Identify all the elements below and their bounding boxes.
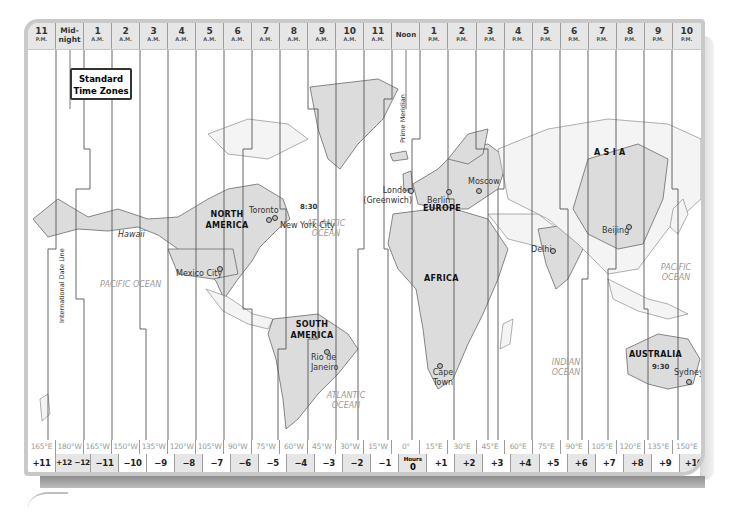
offset-cell: +1 (427, 454, 455, 472)
period-label: P.M. (561, 36, 588, 43)
offset-cell: +8 (624, 454, 652, 472)
period-label: P.M. (673, 36, 701, 43)
city-mexico-city: Mexico City (176, 269, 222, 278)
period-label: A.M. (84, 36, 111, 43)
offset-cell: +5 (540, 454, 568, 472)
longitude-cell: 75°W (252, 440, 280, 454)
region-label: NORTH AMERICA (201, 209, 253, 231)
longitude-cell: 45°E (477, 440, 505, 454)
prime-meridian-label: Prime Meridian (399, 94, 407, 143)
longitude-cell: 150°W (112, 440, 140, 454)
ocean-pacific-west: PACIFIC OCEAN (100, 280, 161, 290)
offset-value: 0 (399, 462, 426, 472)
page-curl-decoration (28, 492, 68, 512)
hour-label: 11 (28, 23, 55, 36)
rio-marker-icon (324, 349, 330, 355)
period-label: A.M. (168, 36, 195, 43)
offset-cell: +11 (28, 454, 56, 472)
time-cell: 2A.M. (112, 23, 140, 49)
time-cell: 3A.M. (140, 23, 168, 49)
longitude-cell: 30°W (336, 440, 364, 454)
offset-cell: −11 (91, 454, 119, 472)
title-line-2: Time Zones (72, 85, 130, 97)
time-cell: 11A.M. (364, 23, 392, 49)
hour-label: 4 (168, 23, 195, 36)
period-label: P.M. (533, 36, 560, 43)
city-cape-town: Cape Town (428, 368, 458, 388)
mexico-city-marker-icon (217, 266, 223, 272)
hour-label: 5 (196, 23, 223, 36)
region-africa: AFRICA (424, 273, 459, 284)
period-label: A.M. (364, 36, 391, 43)
offset-cell: −6 (231, 454, 259, 472)
offset-cell: +2 (455, 454, 483, 472)
longitude-cell: 135°E (645, 440, 673, 454)
time-zone-map: 11P.M. Mid-night 1A.M. 2A.M. 3A.M. 4A.M.… (28, 23, 701, 472)
offset-cell: −8 (175, 454, 203, 472)
hour-label: 10 (336, 23, 363, 36)
offset-cell: +3 (483, 454, 511, 472)
city-delhi: Delhi (531, 245, 552, 254)
period-label: P.M. (448, 36, 475, 43)
offset-cell: −9 (147, 454, 175, 472)
city-london: London (Greenwich) (360, 186, 412, 206)
time-cell: 7A.M. (252, 23, 280, 49)
longitude-cell: 90°E (561, 440, 589, 454)
hour-label: 9 (308, 23, 335, 36)
offset-cell: −1 (371, 454, 399, 472)
city-rio: Rio de Janeiro (311, 353, 351, 373)
hour-label: 2 (448, 23, 475, 36)
offset-cell: +9 (652, 454, 680, 472)
period-label: P.M. (589, 36, 616, 43)
offset-cell: −10 (119, 454, 147, 472)
london-marker-icon (408, 188, 414, 194)
sydney-marker-icon (686, 379, 692, 385)
delhi-marker-icon (550, 248, 556, 254)
hour-label: Mid-night (56, 23, 83, 44)
time-cell: 2P.M. (448, 23, 476, 49)
beijing-marker-icon (626, 224, 632, 230)
time-cell: 5P.M. (533, 23, 561, 49)
longitude-cell: 105°W (196, 440, 224, 454)
longitude-cell: 150°E (673, 440, 701, 454)
period-label: P.M. (28, 36, 55, 43)
offset-cell: −4 (287, 454, 315, 472)
offset-cell: −3 (315, 454, 343, 472)
time-cell: 1A.M. (84, 23, 112, 49)
hours-label: Hours (399, 454, 426, 462)
time-cell: 10A.M. (336, 23, 364, 49)
city-hawaii: Hawaii (118, 230, 145, 239)
period-label: P.M. (420, 36, 447, 43)
ocean-indian: INDIAN OCEAN (546, 358, 586, 378)
hour-label: 11 (364, 23, 391, 36)
period-label: A.M. (112, 36, 139, 43)
offset-cell: +12 −12 (56, 454, 91, 472)
longitude-cell: 0° (392, 440, 420, 454)
time-cell: 6P.M. (561, 23, 589, 49)
time-cell: 3P.M. (477, 23, 505, 49)
time-cell: 4P.M. (505, 23, 533, 49)
time-cell: 5A.M. (196, 23, 224, 49)
time-cell: 8A.M. (280, 23, 308, 49)
time-cell-midnight: Mid-night (56, 23, 84, 49)
region-label: SOUTH AMERICA (286, 319, 338, 341)
city-berlin: Berlin (427, 196, 450, 205)
hour-label: 7 (589, 23, 616, 36)
hour-label: 2 (112, 23, 139, 36)
longitude-cell: 45°W (308, 440, 336, 454)
period-label: A.M. (196, 36, 223, 43)
time-cell: 11P.M. (28, 23, 56, 49)
new-york-marker-icon (272, 215, 278, 221)
time-cell-noon: Noon (392, 23, 420, 49)
longitude-cell: 90°W (224, 440, 252, 454)
period-label: P.M. (645, 36, 672, 43)
time-cell: 9P.M. (645, 23, 673, 49)
offset-cell: +6 (568, 454, 596, 472)
offset-cell: −5 (259, 454, 287, 472)
longitude-cell: 120°E (617, 440, 645, 454)
region-australia: AUSTRALIA (629, 349, 682, 360)
hour-label: 7 (252, 23, 279, 36)
region-asia: A S I A (594, 147, 626, 158)
utc-offset-row: +11 +12 −12 −11 −10 −9 −8 −7 −6 −5 −4 −3… (28, 454, 701, 472)
time-header-row: 11P.M. Mid-night 1A.M. 2A.M. 3A.M. 4A.M.… (28, 23, 701, 50)
